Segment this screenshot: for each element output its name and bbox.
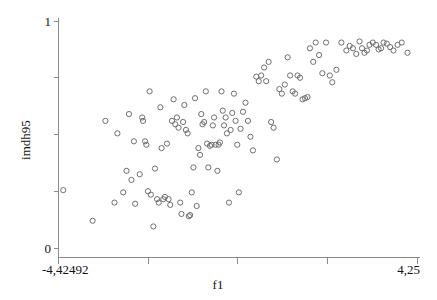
data-point [220,108,225,113]
data-point [391,48,396,53]
data-point [197,152,202,157]
x-axis-ticks [59,258,418,264]
data-point [274,157,279,162]
data-point [191,165,196,170]
data-point [145,189,150,194]
data-point [142,139,147,144]
data-point [256,79,261,84]
data-point [196,146,201,151]
scatter-plot-figure: 1 0 -4,42492 4,25 f1 imdh95 [0,0,437,300]
data-point [115,131,120,136]
data-point [192,96,197,101]
data-point [174,115,179,120]
data-point [320,71,325,76]
data-point [266,59,271,64]
y-axis-min-tick-label: 0 [45,241,52,256]
data-point [219,89,224,94]
data-point [279,91,284,96]
data-points-layer [61,39,410,229]
data-point [221,123,226,128]
data-point [238,126,243,131]
data-point [61,188,66,193]
data-point [248,134,253,139]
data-point [259,73,264,78]
data-point [112,200,117,205]
data-point [199,111,204,116]
data-point [223,115,228,120]
data-point [171,97,176,102]
data-point [231,91,236,96]
data-point [194,203,199,208]
data-point [282,82,287,87]
data-point [158,105,163,110]
data-point [245,118,250,123]
data-point [133,201,138,206]
data-point [226,200,231,205]
data-point [189,190,194,195]
data-point [180,119,185,124]
data-point [147,89,152,94]
data-point [323,40,328,45]
data-point [230,110,235,115]
data-point [399,40,404,45]
data-point [240,109,245,114]
data-point [140,118,145,123]
data-point [90,218,95,223]
data-point [176,125,181,130]
data-point [357,39,362,44]
data-point [168,202,173,207]
data-point [159,146,164,151]
x-axis-max-tick-label: 4,25 [397,262,420,277]
data-point [307,46,312,51]
data-point [121,190,126,195]
data-point [354,51,359,56]
data-point [250,148,255,153]
y-axis-title: imdh95 [18,120,33,160]
data-point [144,142,149,147]
data-point [137,172,142,177]
data-point [235,142,240,147]
data-point [206,165,211,170]
data-point [327,73,332,78]
data-point [210,123,215,128]
data-point [179,211,184,216]
data-point [178,200,183,205]
data-point [126,111,131,116]
data-point [124,168,129,173]
data-point [285,55,290,60]
data-point [269,119,274,124]
data-point [311,59,316,64]
data-point [236,190,241,195]
data-point [316,52,321,57]
data-point [203,89,208,94]
x-axis-min-tick-label: -4,42492 [42,262,89,277]
data-point [271,125,276,130]
data-point [228,127,233,132]
data-point [188,212,193,217]
data-point [182,102,187,107]
data-point [243,100,248,105]
data-point [215,168,220,173]
data-point [381,40,386,45]
data-point [233,118,238,123]
data-point [151,224,156,229]
data-point [129,177,134,182]
y-axis-max-tick-label: 1 [45,14,52,29]
data-point [164,141,169,146]
data-point [103,118,108,123]
data-point [344,48,349,53]
y-axis-ticks [54,21,59,248]
data-point [264,79,269,84]
data-point [211,115,216,120]
chart-canvas: 1 0 -4,42492 4,25 f1 imdh95 [0,0,437,300]
data-point [334,67,339,72]
data-point [152,166,157,171]
data-point [339,40,344,45]
data-point [131,139,136,144]
data-point [148,192,153,197]
data-point [405,50,410,55]
data-point [313,40,318,45]
data-point [330,80,335,85]
data-point [261,65,266,70]
x-axis-title: f1 [213,277,224,292]
